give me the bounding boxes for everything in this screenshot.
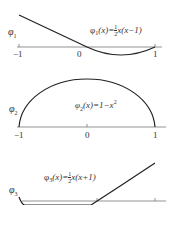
formula-part: (x)= [52, 172, 68, 182]
formula-part: (x)=1−x [83, 100, 114, 110]
phi1-axis-label: φ1 [8, 27, 17, 39]
phi2-formula: φ2(x)=1−x2 [75, 99, 117, 112]
phi3-curve [19, 163, 155, 205]
phi3-formula: φ3(x)=12x(x+1) [44, 171, 96, 184]
phi1-formula: φ1(x)=12x(x−1) [90, 24, 142, 37]
tick-minus-one: −1 [14, 131, 24, 140]
tick-minus-one: −1 [13, 50, 23, 59]
tick-one: 1 [153, 50, 158, 59]
formula-part: x(x−1) [117, 25, 142, 35]
phi3-axis-label: φ3 [9, 185, 18, 197]
superscript: 2 [114, 99, 117, 105]
subscript: 1 [14, 33, 17, 39]
tick-zero: 0 [85, 131, 90, 140]
tick-one: 1 [153, 131, 158, 140]
plot3 [19, 163, 166, 205]
subscript: 3 [15, 191, 18, 197]
tick-zero: 0 [77, 50, 82, 59]
formula-part: (x)= [98, 25, 114, 35]
phi2-axis-label: φ2 [9, 104, 18, 116]
subscript: 2 [15, 110, 18, 116]
formula-part: x(x+1) [71, 172, 96, 182]
